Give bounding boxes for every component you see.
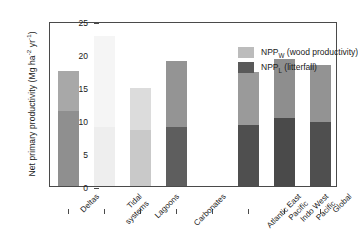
legend-label-rest: (wood productivity)	[284, 47, 358, 57]
bar-stack	[274, 59, 295, 186]
y-axis-title-exp2: -1	[25, 34, 32, 40]
bar-segment-wood	[238, 72, 259, 125]
x-axis-tick-mark	[104, 209, 105, 214]
bar-segment-litterfall	[274, 118, 295, 186]
bar-segment-litterfall	[166, 127, 187, 186]
bar-stack	[94, 36, 115, 186]
legend-item: NPPL (litterfall)	[238, 62, 358, 74]
x-axis-tick-mark	[68, 209, 69, 214]
y-axis-tick-label: 0	[83, 183, 88, 193]
y-axis-title-mid: yr	[27, 40, 37, 50]
plot-area: 0510152025 NPPW (wood productivity)NPPL …	[49, 22, 337, 187]
x-axis-label: Carbonates	[192, 192, 228, 228]
y-axis-title-main: Net primary productivity (Mg ha	[27, 55, 37, 176]
bar-segment-wood	[166, 61, 187, 128]
legend-label: NPPW (wood productivity)	[261, 47, 358, 59]
bar-stack	[310, 65, 331, 186]
y-axis-title: Net primary productivity (Mg ha-2 yr-1)	[25, 9, 37, 199]
x-axis-label: Indo West Pacific	[299, 192, 338, 231]
y-axis-title-exp1: -2	[25, 50, 32, 56]
bar-stack	[58, 71, 79, 187]
bar-segment-wood	[130, 88, 151, 130]
y-axis-tick-label: 20	[79, 51, 88, 61]
y-axis-tick-label: 15	[79, 84, 88, 94]
bar-segment-litterfall	[58, 111, 79, 186]
legend-item: NPPW (wood productivity)	[238, 47, 358, 59]
y-axis-tick-label: 25	[79, 18, 88, 28]
x-axis-tick-mark	[176, 209, 177, 214]
x-axis-label: Lagoons	[153, 192, 181, 220]
bar-segment-litterfall	[130, 130, 151, 186]
x-axis-label: Tidal systems	[117, 192, 151, 226]
bar-stack	[130, 88, 151, 186]
legend-label-rest: (litterfall)	[282, 62, 317, 72]
bar-segment-litterfall	[310, 122, 331, 186]
legend-swatch	[238, 62, 254, 73]
bar-stack	[166, 61, 187, 186]
bar-segment-wood	[58, 71, 79, 112]
x-axis-label: Deltas	[79, 192, 102, 215]
y-axis-tick-mark	[94, 188, 99, 189]
bar-segment-litterfall	[238, 125, 259, 186]
legend-label-main: NPP	[261, 62, 278, 72]
y-axis-tick-label: 10	[79, 117, 88, 127]
bar-stack	[238, 72, 259, 186]
chart-legend: NPPW (wood productivity)NPPL (litterfall…	[238, 47, 358, 76]
y-axis-tick-label: 5	[83, 150, 88, 160]
bar-segment-wood	[94, 36, 115, 127]
legend-label: NPPL (litterfall)	[261, 62, 317, 74]
legend-label-main: NPP	[261, 47, 278, 57]
x-axis-label: Global	[331, 192, 354, 215]
y-axis-title-end: )	[27, 31, 37, 34]
x-axis-tick-mark	[248, 209, 249, 214]
legend-swatch	[238, 47, 254, 58]
bar-segment-litterfall	[94, 127, 115, 186]
y-axis-tick-mark	[94, 23, 99, 24]
